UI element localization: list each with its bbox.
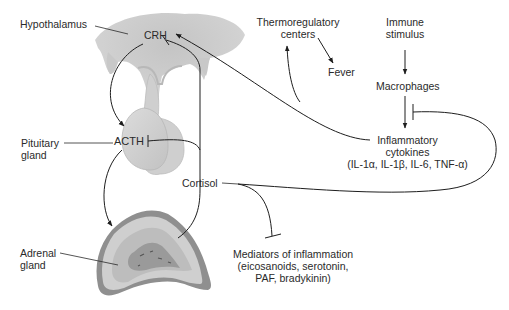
edge-thermo-to-fever	[318, 38, 333, 63]
label-immune-line1: Immune	[380, 16, 430, 28]
label-thermoregulatory: Thermoregulatory centers	[252, 16, 344, 40]
label-immune-stimulus: Immune stimulus	[380, 16, 430, 40]
label-crh: CRH	[144, 29, 167, 41]
label-inflammatory-cytokines: Inflammatory cytokines (IL-1α, IL-1β, IL…	[345, 134, 470, 170]
pituitary-illustration	[122, 74, 184, 175]
label-hypothalamus: Hypothalamus	[20, 18, 87, 30]
edge-cortisol-inhibits-mediators	[238, 184, 272, 236]
label-fever: Fever	[328, 66, 355, 78]
label-mediators-line2: (eicosanoids, serotonin,	[228, 260, 358, 272]
label-cytokines-line2: cytokines	[345, 146, 470, 158]
adrenal-gland-illustration	[97, 211, 212, 296]
label-mediators-line3: PAF, bradykinin)	[228, 272, 358, 284]
label-pituitary-line1: Pituitary	[21, 137, 59, 149]
label-mediators-of-inflammation: Mediators of inflammation (eicosanoids, …	[228, 248, 358, 284]
label-pituitary-line2: gland	[21, 149, 47, 161]
label-cytokines-line3: (IL-1α, IL-1β, IL-6, TNF-α)	[345, 158, 470, 170]
label-cortisol: Cortisol	[182, 177, 218, 189]
hpa-axis-diagram: Hypothalamus CRH Pituitary gland ACTH Ad…	[0, 0, 509, 310]
edge-to-thermoregulatory	[287, 46, 300, 102]
label-immune-line2: stimulus	[380, 28, 430, 40]
label-thermo-line2: centers	[252, 28, 344, 40]
label-acth: ACTH	[114, 135, 144, 147]
inhibit-bar-mediators	[265, 234, 281, 238]
label-cytokines-line1: Inflammatory	[345, 134, 470, 146]
label-mediators-line1: Mediators of inflammation	[228, 248, 358, 260]
label-thermo-line1: Thermoregulatory	[252, 16, 344, 28]
label-adrenal-line1: Adrenal	[20, 247, 56, 259]
label-adrenal-line2: gland	[20, 259, 46, 271]
edge-acth-to-adrenal	[104, 150, 122, 226]
label-macrophages: Macrophages	[376, 80, 440, 92]
